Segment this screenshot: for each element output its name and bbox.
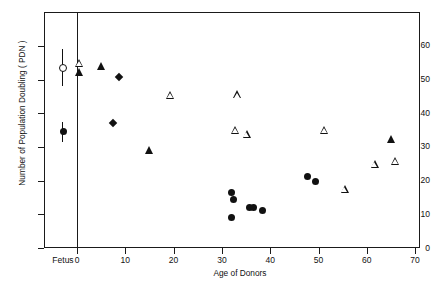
x-tick-label: 40 [253,256,287,265]
data-point-circle-filled [228,214,235,221]
y-tick [38,80,44,81]
y-tick [38,113,44,114]
y-tick-label: 60 [408,41,430,49]
y-tick [38,214,44,215]
data-point-triangle-filled [387,135,395,143]
fetus-category-label: Fetus [46,256,80,265]
y-tick-label: 30 [408,142,430,150]
data-point-triangle-filled [145,146,153,154]
x-tick [270,248,271,254]
data-point-triangle-open [233,90,241,98]
data-point-triangle-filled [97,62,105,70]
y-tick-label: 10 [408,210,430,218]
data-point-triangle-open [231,126,239,134]
x-tick-label: 70 [398,256,432,265]
y-tick [38,46,44,47]
x-tick-label: 30 [205,256,239,265]
x-tick [319,248,320,254]
x-tick-label: 20 [157,256,191,265]
y-tick-label: 40 [408,109,430,117]
data-point-triangle-filled [75,68,83,76]
x-tick-label: 10 [108,256,142,265]
x-tick [222,248,223,254]
x-axis-title: Age of Donors [0,268,430,278]
fetus-panel-divider [77,12,78,249]
data-point-triangle-open [243,130,251,138]
data-point-triangle-open [75,59,83,67]
y-tick [38,147,44,148]
data-point-triangle-open [320,126,328,134]
x-tick [77,248,78,254]
data-point-circle-filled [312,178,319,185]
x-tick [415,248,416,254]
y-tick-label: 0 [408,244,430,252]
y-tick [38,181,44,182]
y-axis-title: Number of Population Doubling ( PDN ) [17,13,27,213]
data-point-triangle-open [166,91,174,99]
x-tick [367,248,368,254]
data-point-triangle-open [341,185,349,193]
y-tick-label: 20 [408,176,430,184]
data-point-triangle-open [371,160,379,168]
data-point-circle-filled [230,196,237,203]
y-tick [38,248,44,249]
x-tick [125,248,126,254]
data-point-triangle-open [391,157,399,165]
x-tick-label: 60 [350,256,384,265]
y-tick-label: 50 [408,75,430,83]
x-tick-label: 50 [302,256,336,265]
data-point-circle-open [59,64,67,72]
data-point-circle-filled [60,128,67,135]
data-point-circle-filled [228,189,235,196]
x-tick [174,248,175,254]
